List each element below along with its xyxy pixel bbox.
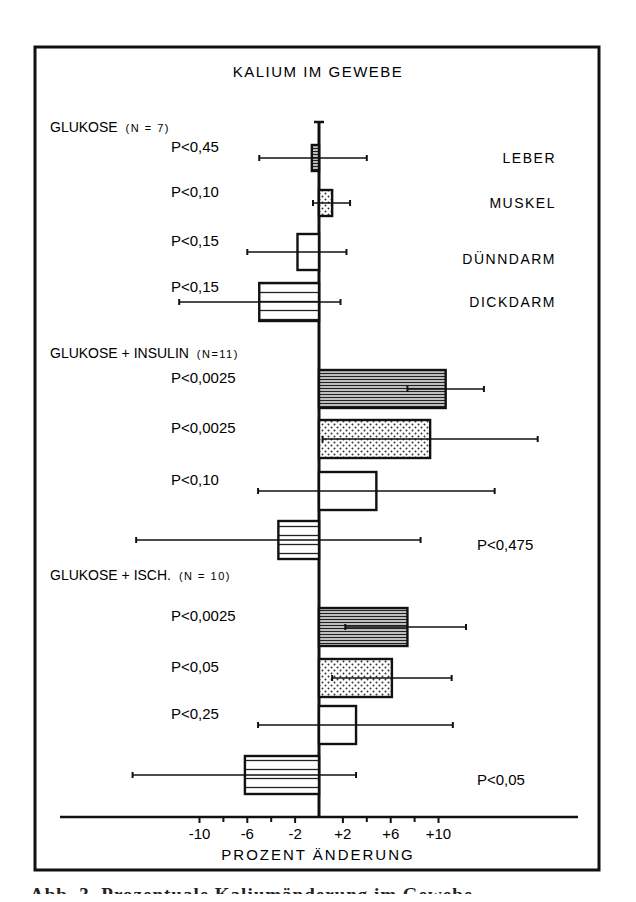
x-axis-ticks: -10-6-2+2+6+10 xyxy=(189,817,452,842)
bar-leber xyxy=(259,145,367,171)
group-glukose-isch-: GLUKOSE + ISCH. (N = 10)P<0,0025P<0,05P<… xyxy=(50,567,525,794)
x-tick-label: -10 xyxy=(189,825,211,842)
x-tick-label: +10 xyxy=(426,825,451,842)
p-value-label: P<0,0025 xyxy=(171,419,236,436)
group-label: GLUKOSE (N = 7) xyxy=(50,119,170,135)
bar-muskel xyxy=(319,420,538,458)
tissue-label: DÜNNDARM xyxy=(462,250,556,267)
bar-duenndarm xyxy=(258,472,495,510)
bar-duenndarm xyxy=(258,706,453,744)
x-tick-label: -2 xyxy=(288,825,301,842)
p-value-label: P<0,25 xyxy=(171,705,219,722)
bar-dickdarm xyxy=(133,756,356,794)
bar-leber xyxy=(319,608,466,646)
p-value-label: P<0,0025 xyxy=(171,607,236,624)
p-value-label: P<0,15 xyxy=(171,278,219,295)
group-label: GLUKOSE + ISCH. (N = 10) xyxy=(50,567,231,583)
p-value-label: P<0,05 xyxy=(477,771,525,788)
x-tick-label: +2 xyxy=(334,825,351,842)
p-value-label: P<0,10 xyxy=(171,183,219,200)
bar-muskel xyxy=(313,190,350,216)
p-value-label: P<0,45 xyxy=(171,138,219,155)
plot-area: GLUKOSE (N = 7)P<0,45LEBERP<0,10MUSKELP<… xyxy=(50,119,556,817)
chart-title: KALIUM IM GEWEBE xyxy=(233,63,404,80)
p-value-label: P<0,0025 xyxy=(171,369,236,386)
x-axis-label: PROZENT ÄNDERUNG xyxy=(221,846,414,863)
bar-duenndarm xyxy=(247,234,346,270)
group-glukose-insulin: GLUKOSE + INSULIN (N=11)P<0,0025P<0,0025… xyxy=(50,345,538,559)
bar-dickdarm xyxy=(136,521,420,559)
x-tick-label: -6 xyxy=(241,825,254,842)
p-value-label: P<0,05 xyxy=(171,658,219,675)
group-glukose: GLUKOSE (N = 7)P<0,45LEBERP<0,10MUSKELP<… xyxy=(50,119,556,321)
kalium-chart: KALIUM IM GEWEBE GLUKOSE (N = 7)P<0,45LE… xyxy=(0,0,636,902)
tissue-label: MUSKEL xyxy=(489,195,556,211)
p-value-label: P<0,10 xyxy=(171,471,219,488)
bar-muskel xyxy=(319,659,452,697)
p-value-label: P<0,475 xyxy=(477,536,533,553)
tissue-label: LEBER xyxy=(503,150,556,166)
group-label: GLUKOSE + INSULIN (N=11) xyxy=(50,345,239,361)
p-value-label: P<0,15 xyxy=(171,232,219,249)
x-tick-label: +6 xyxy=(382,825,399,842)
tissue-label: DICKDARM xyxy=(469,294,556,310)
bar-leber xyxy=(319,370,484,408)
